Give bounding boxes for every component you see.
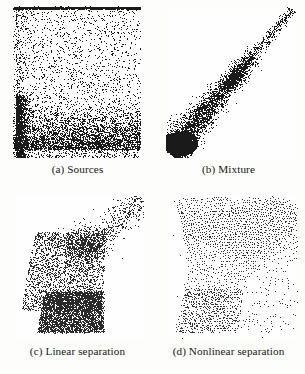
- panel-b-mixture: [166, 6, 298, 158]
- scatter-canvas-c: [14, 196, 144, 339]
- panel-a-sources: [13, 6, 141, 158]
- scatter-plot-a: [13, 6, 141, 158]
- scatter-canvas-a: [13, 6, 141, 158]
- panel-d-nonlinear-separation: [170, 196, 298, 339]
- panel-c-caption: (c) Linear separation: [0, 345, 155, 358]
- panel-d-caption: (d) Nonlinear separation: [152, 345, 305, 358]
- scatter-plot-c: [14, 196, 144, 339]
- scatter-plot-b: [166, 6, 298, 158]
- scatter-canvas-d: [170, 196, 298, 339]
- panel-a-caption: (a) Sources: [0, 163, 155, 176]
- scatter-plot-d: [170, 196, 298, 339]
- panel-b-caption: (b) Mixture: [152, 163, 305, 176]
- figure-container: (a) Sources (b) Mixture (c) Linear separ…: [0, 0, 305, 374]
- scatter-canvas-b: [166, 6, 298, 158]
- panel-c-linear-separation: [14, 196, 144, 339]
